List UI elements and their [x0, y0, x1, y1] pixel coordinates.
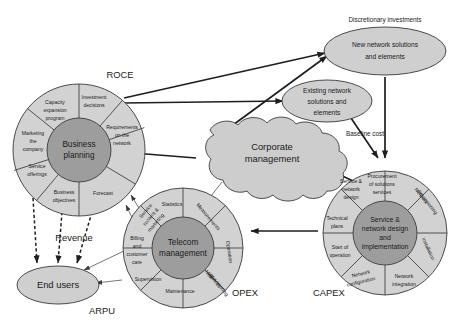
telecom-management-cycle-diagram: New network solutions and elements Exist…	[0, 0, 473, 328]
label-revenue: Revenue	[55, 232, 93, 243]
node-new-network-solutions-line2: and elements	[365, 53, 405, 60]
svg-text:network: network	[342, 186, 360, 192]
svg-text:Maintenance: Maintenance	[165, 288, 194, 294]
label-baseline-cost: Baseline cost	[346, 130, 384, 137]
wheel-service-network-design-hub-line3: and	[379, 234, 391, 241]
wheel-business-planning-hub-line1: Business	[62, 140, 95, 149]
svg-text:Technical: Technical	[326, 215, 347, 221]
svg-text:plans: plans	[331, 223, 344, 229]
node-corporate-management-line1: Corporate	[251, 141, 293, 152]
link-existing-network-to-capex	[351, 118, 378, 158]
svg-text:Service: Service	[29, 163, 46, 169]
segment-forecast[interactable]: Forecast	[93, 190, 113, 196]
svg-text:Marketing: Marketing	[22, 130, 45, 136]
svg-text:services: services	[373, 189, 392, 195]
svg-text:of solutions: of solutions	[369, 181, 395, 187]
wheel-telecom-management[interactable]: Telecom management Statistics Measuremen…	[123, 188, 243, 308]
segment-maintenance[interactable]: Maintenance	[165, 288, 194, 294]
svg-text:offerings: offerings	[27, 171, 47, 177]
label-roce: ROCE	[106, 69, 133, 80]
label-opex: OPEX	[232, 287, 259, 298]
svg-text:Business: Business	[54, 189, 75, 195]
node-corporate-management[interactable]: Corporate management	[206, 117, 348, 201]
svg-text:Start of: Start of	[332, 244, 349, 250]
svg-text:Forecast: Forecast	[93, 190, 113, 196]
svg-text:the: the	[29, 138, 36, 144]
link-revenue-dashed-1	[33, 198, 37, 263]
svg-text:Billing: Billing	[130, 235, 144, 241]
svg-text:network: network	[113, 140, 131, 146]
svg-text:customer: customer	[127, 251, 148, 257]
svg-text:Supervision: Supervision	[135, 276, 162, 282]
node-existing-network-solutions[interactable]: Existing network solutions and elements	[282, 80, 372, 122]
link-corporate-to-telecom	[211, 182, 222, 196]
svg-text:Procurement: Procurement	[367, 173, 397, 179]
wheel-service-network-design-hub-line2: network design	[362, 225, 409, 233]
wheel-telecom-management-hub-line1: Telecom	[168, 238, 199, 247]
wheel-service-network-design[interactable]: Service & network design and implementat…	[323, 171, 447, 295]
link-telecom-to-endusers-b	[96, 280, 122, 283]
svg-text:integration: integration	[392, 281, 416, 287]
svg-text:and: and	[133, 243, 142, 249]
svg-text:operation: operation	[329, 252, 350, 258]
wheel-business-planning[interactable]: Business planning Investment decisions C…	[13, 84, 145, 216]
node-existing-network-solutions-line2: solutions and	[308, 98, 347, 105]
node-end-users-label: End users	[37, 279, 80, 290]
node-existing-network-solutions-line1: Existing network	[303, 87, 352, 95]
svg-text:company: company	[23, 146, 44, 152]
node-end-users[interactable]: End users	[17, 266, 99, 304]
label-arpu: ARPU	[89, 305, 115, 316]
svg-text:design: design	[343, 194, 358, 200]
svg-text:on the: on the	[115, 132, 129, 138]
label-capex: CAPEX	[313, 287, 346, 298]
node-existing-network-solutions-line3: elements	[314, 109, 341, 116]
svg-text:Investment: Investment	[82, 94, 107, 100]
link-telecom-to-endusers-a	[84, 250, 126, 270]
svg-text:expansion: expansion	[43, 107, 66, 113]
segment-capacity-expansion-program[interactable]: Capacity expansion program	[43, 99, 66, 121]
node-new-network-solutions[interactable]: New network solutions and elements	[324, 27, 446, 75]
svg-text:Capacity: Capacity	[45, 99, 65, 105]
wheel-telecom-management-hub-line2: management	[159, 249, 208, 258]
wheel-service-network-design-hub-line4: implementation	[362, 243, 409, 251]
wheel-service-network-design-hub-line1: Service &	[370, 216, 400, 223]
svg-text:Requirements: Requirements	[106, 124, 138, 130]
node-corporate-management-line2: management	[245, 153, 300, 164]
node-new-network-solutions-line1: New network solutions	[352, 41, 419, 48]
svg-text:care: care	[132, 259, 142, 265]
svg-text:Network: Network	[395, 273, 414, 279]
svg-text:objectives: objectives	[53, 197, 76, 203]
svg-text:Service &: Service &	[340, 178, 362, 184]
svg-text:Statistics: Statistics	[162, 201, 183, 207]
link-bp-to-existing-network	[124, 101, 283, 103]
svg-text:program: program	[46, 115, 65, 121]
svg-text:decisions: decisions	[83, 102, 105, 108]
segment-statistics[interactable]: Statistics	[162, 201, 183, 207]
label-discretionary-investments: Discretionary investments	[348, 16, 421, 24]
segment-supervision[interactable]: Supervision	[135, 276, 162, 282]
wheel-business-planning-hub-line2: planning	[64, 151, 95, 160]
